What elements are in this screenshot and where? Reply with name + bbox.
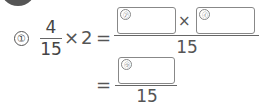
- answer-box-a[interactable]: ㋐: [117, 7, 176, 34]
- box-b-label: ㋑: [199, 9, 210, 20]
- answer-box-b[interactable]: ㋑: [196, 7, 255, 34]
- equals-sign: =: [96, 28, 111, 48]
- section-marker-shape: [0, 0, 36, 6]
- given-fraction: 4 15: [40, 18, 62, 59]
- times-sign-step1: ×: [178, 11, 191, 31]
- multiplier: 2: [81, 28, 92, 48]
- box-c-label: ㋒: [121, 59, 132, 70]
- problem-number: ①: [14, 31, 29, 46]
- denominator-step2: 15: [134, 87, 160, 106]
- denominator-step1: 15: [174, 38, 200, 57]
- equals-sign-step2: =: [96, 75, 111, 95]
- answer-box-c[interactable]: ㋒: [118, 57, 175, 84]
- numerator: 4: [40, 18, 62, 37]
- times-sign: ×: [64, 28, 79, 48]
- box-a-label: ㋐: [120, 9, 131, 20]
- denominator: 15: [40, 40, 62, 59]
